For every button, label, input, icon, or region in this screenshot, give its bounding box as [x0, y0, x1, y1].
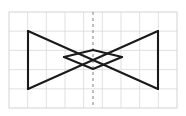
symmetry-figure-svg	[0, 0, 186, 116]
figure-canvas	[0, 0, 186, 116]
